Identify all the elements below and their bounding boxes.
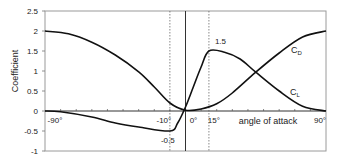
y-tick-label: 0.5 bbox=[27, 87, 39, 96]
x-tick-label: -90° bbox=[48, 116, 63, 125]
series-label-cl: CL bbox=[290, 87, 301, 98]
y-tick-label: 2 bbox=[34, 27, 39, 36]
y-axis: 2.521.510.50-0.5-1 bbox=[24, 7, 45, 156]
x-tick-label: 15° bbox=[208, 116, 220, 125]
value-annotation: -0.5 bbox=[161, 136, 175, 145]
x-tick-label: -10° bbox=[157, 116, 172, 125]
x-tick-label: 0° bbox=[190, 116, 198, 125]
annotations: 1.5-0.5CDCL bbox=[161, 37, 303, 145]
y-tick-label: 1 bbox=[34, 67, 39, 76]
y-tick-label: 1.5 bbox=[27, 47, 39, 56]
y-tick-label: -0.5 bbox=[24, 127, 38, 136]
series-label-cd: CD bbox=[291, 45, 303, 56]
x-tick-label: 90° bbox=[314, 116, 326, 125]
coefficient-chart: 2.521.510.50-0.5-1 -90°-10°0°15°90° 1.5-… bbox=[0, 0, 343, 168]
y-axis-label: Coefficient bbox=[10, 49, 20, 92]
y-tick-label: 2.5 bbox=[27, 7, 39, 16]
x-axis-label: angle of attack bbox=[239, 116, 298, 126]
y-tick-label: -1 bbox=[31, 147, 39, 156]
y-tick-label: 0 bbox=[34, 107, 39, 116]
value-annotation: 1.5 bbox=[215, 37, 227, 46]
reference-lines bbox=[170, 11, 209, 151]
